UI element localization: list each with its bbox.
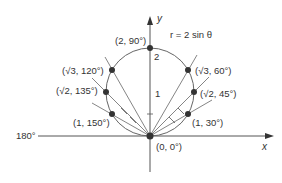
point-label: (√2, 135°)	[56, 85, 98, 96]
point-label: (0, 0°)	[156, 141, 182, 152]
point-label: (2, 90°)	[115, 35, 146, 46]
equation-label: r = 2 sin θ	[170, 29, 212, 40]
point-sqrt2-45	[191, 89, 197, 95]
point-label: (√3, 60°)	[195, 65, 231, 76]
point-label: (√2, 45°)	[200, 88, 236, 99]
point-2-90	[147, 45, 153, 51]
point-label: (1, 30°)	[192, 117, 223, 128]
point-0-0	[147, 133, 154, 140]
ray-ticks	[121, 108, 184, 123]
point-sqrt2-135	[103, 89, 109, 95]
y-tick-2: 2	[154, 51, 159, 62]
x-axis-arrow-icon	[265, 133, 274, 139]
point-sqrt3-120	[109, 67, 115, 73]
point-label: (1, 150°)	[73, 117, 110, 128]
point-sqrt3-60	[185, 67, 191, 73]
y-tick-1: 1	[155, 88, 160, 99]
point-1-150	[109, 111, 115, 117]
polar-graph: r = 2 sin θ y x 180° 2 1 (2, 90°) (√3, 1…	[0, 0, 282, 183]
y-axis-label: y	[156, 13, 163, 24]
point-1-30	[185, 111, 191, 117]
x-axis-label: x	[261, 141, 268, 152]
point-label: (√3, 120°)	[62, 65, 104, 76]
angle-180-label: 180°	[16, 130, 36, 141]
y-axis-arrow-icon	[147, 16, 153, 25]
